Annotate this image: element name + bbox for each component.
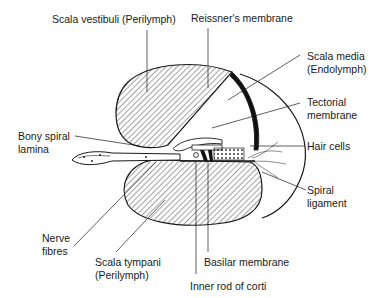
leader-scala-media [228,55,300,100]
label-spiral-ligament-line1: Spiral [307,184,334,196]
label-spiral-ligament-line2: ligament [307,197,347,209]
label-tectorial-line1: Tectorial [307,96,346,108]
label-bony-spiral-line1: Bony spiral [18,130,70,142]
label-scala-tympani-line1: Scala tympani [95,256,161,268]
label-bony-spiral-line2: lamina [18,143,49,155]
label-nerve-fibres-line2: fibres [42,245,68,257]
label-scala-vestibuli: Scala vestibuli (Perilymph) [52,13,176,25]
label-tectorial-line2: membrane [307,109,357,121]
scala-tympani-region [124,160,262,225]
label-basilar-membrane: Basilar membrane [204,256,289,268]
label-scala-tympani-line2: (Perilymph) [95,269,149,281]
label-scala-media-line2: (Endolymph) [307,63,367,75]
label-hair-cells: Hair cells [307,140,350,152]
cochlea-diagram: Scala vestibuli (Perilymph) Reissner's m… [0,0,388,298]
label-reissners-membrane: Reissner's membrane [191,12,293,24]
label-scala-media-line1: Scala media [307,50,365,62]
label-inner-rod-of-corti: Inner rod of corti [190,280,266,292]
label-nerve-fibres-line1: Nerve [42,232,70,244]
